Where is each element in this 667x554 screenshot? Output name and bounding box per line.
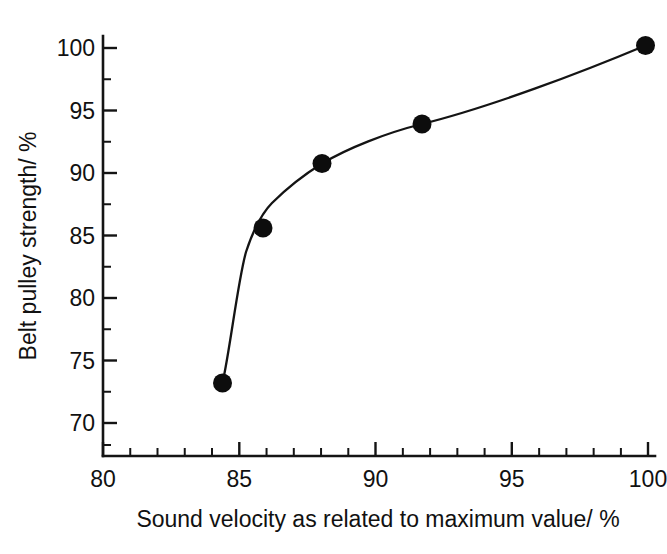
x-tick-label-80: 80 xyxy=(90,466,116,492)
line-chart-canvas: 100 95 90 85 80 75 70 xyxy=(0,0,667,554)
x-axis-tick-labels: 80 85 90 95 100 xyxy=(90,466,667,492)
y-axis-ticks xyxy=(103,48,117,445)
x-axis-ticks xyxy=(103,442,648,456)
y-tick-label-70: 70 xyxy=(69,410,95,436)
y-tick-label-100: 100 xyxy=(57,35,95,61)
y-tick-label-90: 90 xyxy=(69,160,95,186)
chart-figure: 100 95 90 85 80 75 70 xyxy=(0,0,667,554)
axis-spines xyxy=(103,36,655,456)
data-point-1 xyxy=(213,374,232,393)
x-tick-label-85: 85 xyxy=(227,466,253,492)
x-tick-label-95: 95 xyxy=(499,466,525,492)
data-point-4 xyxy=(413,115,432,134)
y-axis-tick-labels: 100 95 90 85 80 75 70 xyxy=(57,35,95,436)
y-tick-label-95: 95 xyxy=(69,98,95,124)
data-point-2 xyxy=(254,219,273,238)
y-tick-label-80: 80 xyxy=(69,285,95,311)
y-tick-label-85: 85 xyxy=(69,223,95,249)
y-tick-label-75: 75 xyxy=(69,348,95,374)
y-axis-title: Belt pulley strength/ % xyxy=(15,132,41,361)
x-tick-label-90: 90 xyxy=(363,466,389,492)
data-point-5 xyxy=(636,36,655,55)
series-curve xyxy=(223,46,646,384)
x-axis-title: Sound velocity as related to maximum val… xyxy=(136,506,619,532)
series-belt-pulley-strength xyxy=(213,36,655,393)
data-point-3 xyxy=(313,154,332,173)
x-tick-label-100: 100 xyxy=(629,466,667,492)
